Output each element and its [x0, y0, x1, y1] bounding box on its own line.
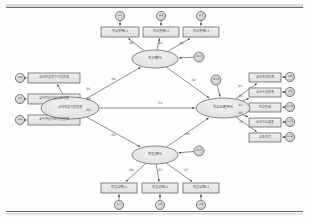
- path-L2-to-L4: [166, 67, 209, 98]
- error-path-d14-to-L4: [217, 85, 220, 97]
- path-L2-to-O1: [128, 38, 144, 50]
- path-L1-to-L2: [86, 67, 140, 98]
- path-L4-to-O11: [243, 98, 249, 100]
- path-L3-to-O9: [166, 163, 192, 181]
- path-L3-to-O8: [156, 164, 159, 181]
- path-L3-to-O7: [126, 164, 146, 182]
- path-L4-to-O13: [243, 115, 248, 117]
- path-L2-to-O2: [157, 38, 159, 49]
- figure-frame: 학교행복도1학교행복도2학교행복도3교사학습연구지원환경교사학습지원상호작용교수…: [0, 0, 309, 221]
- path-L1-to-L3: [87, 117, 140, 146]
- node-shapes: [15, 11, 294, 209]
- error-path-d13-to-L2: [179, 57, 193, 58]
- sem-path-diagram: [0, 0, 309, 221]
- path-L2-to-O3: [168, 38, 190, 51]
- path-L3-to-L4: [167, 118, 209, 147]
- error-path-d15-to-L3: [179, 151, 194, 152]
